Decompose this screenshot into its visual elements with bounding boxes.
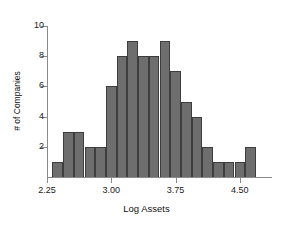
y-tick-label: 4 xyxy=(39,112,44,121)
histogram-bar xyxy=(74,132,85,177)
histogram-bar xyxy=(138,56,149,177)
histogram-bar xyxy=(170,71,181,177)
x-axis-title: Log Assets xyxy=(0,203,293,214)
chart-page: 246810 2.253.003.754.50 # of Companies L… xyxy=(0,0,293,228)
histogram-bars xyxy=(47,26,272,177)
histogram-bar xyxy=(181,102,192,178)
x-tick-mark xyxy=(47,178,48,183)
y-axis-title: # of Companies xyxy=(12,51,22,151)
histogram-bar xyxy=(160,41,171,177)
histogram-bar xyxy=(245,147,256,177)
x-tick-mark xyxy=(176,178,177,183)
histogram-bar xyxy=(192,117,203,177)
x-tick-label: 4.50 xyxy=(231,186,249,195)
histogram-bar xyxy=(85,147,96,177)
histogram-bar xyxy=(213,162,224,177)
y-tick-label: 6 xyxy=(39,81,44,90)
histogram-bar xyxy=(117,56,128,177)
histogram-bar xyxy=(127,41,138,177)
histogram-bar xyxy=(95,147,106,177)
histogram-bar xyxy=(202,147,213,177)
histogram-plot: 246810 2.253.003.754.50 # of Companies L… xyxy=(0,0,293,228)
x-tick-label: 3.75 xyxy=(167,186,185,195)
x-tick-mark xyxy=(240,178,241,183)
y-tick-label: 10 xyxy=(34,21,44,30)
x-tick-label: 2.25 xyxy=(38,186,56,195)
histogram-bar xyxy=(235,162,246,177)
histogram-bar xyxy=(224,162,235,177)
histogram-bar xyxy=(106,86,117,177)
x-tick-label: 3.00 xyxy=(103,186,121,195)
x-tick-mark xyxy=(111,178,112,183)
histogram-bar xyxy=(63,132,74,177)
histogram-bar xyxy=(149,56,160,177)
histogram-bar xyxy=(52,162,63,177)
y-tick-label: 2 xyxy=(39,142,44,151)
x-axis-line xyxy=(47,177,272,178)
y-tick-label: 8 xyxy=(39,51,44,60)
